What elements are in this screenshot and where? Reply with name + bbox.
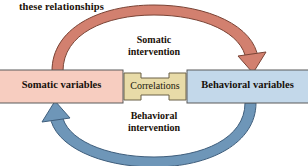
behavioral-intervention-label: Behavioral intervention [89,110,219,133]
diagram-figure: these relationships Somatic variables Be… [0,0,308,166]
figure-caption: these relationships [19,1,104,12]
behavioral-intervention-label-line1: Behavioral [89,110,219,122]
behavioral-variables-label: Behavioral variables [187,79,308,90]
behavioral-intervention-arrowhead [42,101,70,122]
somatic-intervention-label-line2: intervention [89,46,219,58]
somatic-variables-label: Somatic variables [0,79,123,90]
somatic-intervention-label-line1: Somatic [89,34,219,46]
correlations-label: Correlations [124,80,186,91]
somatic-intervention-label: Somatic intervention [89,34,219,57]
behavioral-intervention-label-line2: intervention [89,122,219,134]
